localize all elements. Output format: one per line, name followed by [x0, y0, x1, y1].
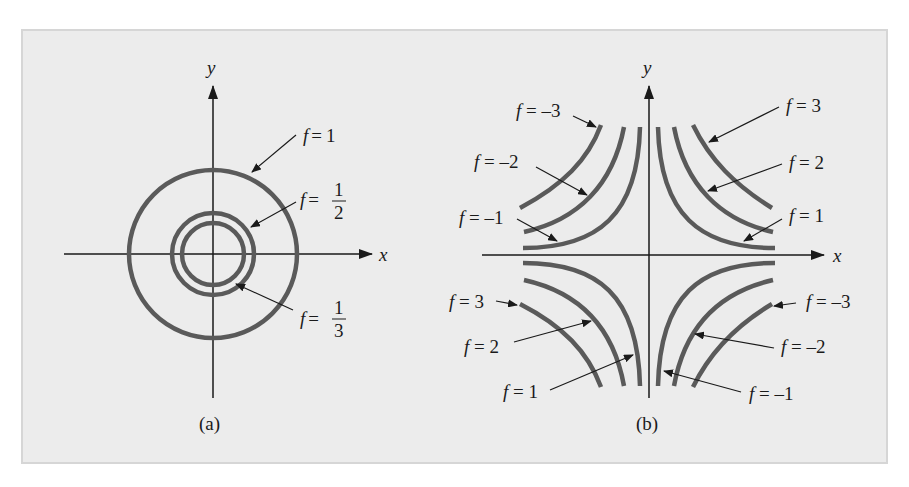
y-axis-label: y [205, 57, 216, 78]
panel-b-caption: (b) [636, 413, 658, 435]
level-curves-figure: x y f=1 f= 1 2 f= 1 3 (a) x y [0, 0, 909, 487]
label-br-fneg3: f = –3 [806, 291, 851, 312]
label-tr-f2: f = 2 [789, 152, 824, 173]
y-axis-label: y [641, 57, 652, 78]
label-f-third-num: 1 [334, 297, 344, 318]
label-tr-f1: f = 1 [789, 205, 824, 226]
label-f-half-var: f= [300, 189, 319, 210]
label-tr-f3: f = 3 [786, 95, 821, 116]
label-f-half-den: 2 [334, 202, 344, 223]
label-f-third-den: 3 [334, 320, 344, 341]
label-tl-fneg1: f = –1 [459, 207, 504, 228]
label-f-1: f=1 [303, 125, 336, 146]
label-tl-fneg2: f = –2 [474, 151, 519, 172]
x-axis-label: x [832, 245, 842, 266]
label-f-third-var: f= [300, 308, 319, 329]
label-br-fneg1: f = –1 [749, 383, 794, 404]
label-bl-f1: f = 1 [503, 381, 538, 402]
label-bl-f2: f = 2 [464, 336, 499, 357]
label-f-half-num: 1 [334, 179, 344, 200]
label-tl-fneg3: f = –3 [516, 100, 561, 121]
label-bl-f3: f = 3 [449, 291, 484, 312]
x-axis-label: x [378, 244, 388, 265]
panel-a-caption: (a) [199, 413, 220, 435]
label-br-fneg2: f = –2 [781, 336, 826, 357]
